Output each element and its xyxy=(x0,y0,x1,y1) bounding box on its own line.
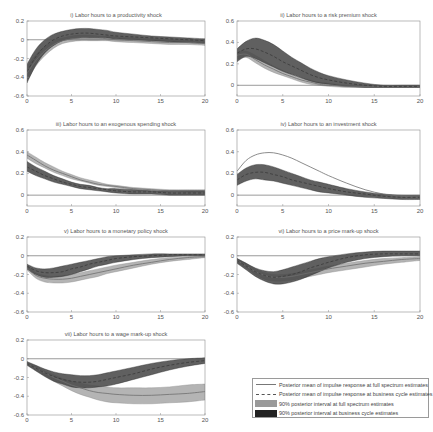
y-tick-label: -0.4 xyxy=(14,290,25,296)
panel-i: i) Labor hours to a productivity shock05… xyxy=(14,12,209,104)
x-tick-label: 15 xyxy=(157,417,164,423)
x-tick-label: 5 xyxy=(70,98,74,104)
legend-item-full-interval: 90% posterior interval at full spectrum … xyxy=(255,399,426,409)
y-tick-label: -0.2 xyxy=(224,272,235,278)
y-tick-label: 0 xyxy=(21,253,25,259)
x-tick-label: 5 xyxy=(70,208,74,214)
y-tick-label: -0.4 xyxy=(14,74,25,80)
x-tick-label: 0 xyxy=(25,98,29,104)
y-tick-label: 0.2 xyxy=(16,234,25,240)
panel-vi: vi) Labor hours to a price mark-up shock… xyxy=(224,228,424,320)
x-tick-label: 20 xyxy=(202,208,209,214)
y-tick-label: 0.2 xyxy=(226,170,235,176)
x-tick-label: 10 xyxy=(113,417,120,423)
panel-title: ii) Labor hours to a risk premium shock xyxy=(280,12,377,18)
y-tick-label: -0.6 xyxy=(224,309,235,315)
x-tick-label: 20 xyxy=(202,417,209,423)
panel-title: vii) Labor hours to a wage mark-up shock xyxy=(65,331,168,337)
panel-iii: iii) Labor hours to an exogenous spendin… xyxy=(16,121,209,214)
panel-vii: vii) Labor hours to a wage mark-up shock… xyxy=(14,331,209,423)
x-tick-label: 0 xyxy=(25,208,29,214)
x-tick-label: 10 xyxy=(325,98,332,104)
y-tick-label: 0 xyxy=(231,253,235,259)
y-tick-label: -0.6 xyxy=(14,93,25,99)
y-tick-label: 0.4 xyxy=(16,149,25,155)
x-tick-label: 10 xyxy=(113,98,120,104)
panel-title: vi) Labor hours to a price mark-up shock xyxy=(278,228,378,234)
x-tick-label: 5 xyxy=(70,417,74,423)
panel-title: i) Labor hours to a productivity shock xyxy=(70,12,162,18)
x-tick-label: 15 xyxy=(157,208,164,214)
x-tick-label: 5 xyxy=(70,314,74,320)
legend-label: 90% posterior interval at full spectrum … xyxy=(279,401,394,407)
panel-title: iv) Labor hours to an investment shock xyxy=(280,121,376,127)
y-tick-label: -0.6 xyxy=(14,412,25,418)
panel-title: v) Labor hours to a monetary policy shoc… xyxy=(64,228,168,234)
x-tick-label: 5 xyxy=(281,98,285,104)
x-tick-label: 20 xyxy=(417,208,424,214)
y-tick-label: 0.2 xyxy=(16,170,25,176)
x-tick-label: 5 xyxy=(281,314,285,320)
y-tick-label: 0 xyxy=(21,192,25,198)
y-tick-label: 0 xyxy=(21,356,25,362)
y-tick-label: -0.4 xyxy=(224,290,235,296)
legend-label: Posterior mean of impulse response at fu… xyxy=(279,382,428,388)
y-tick-label: 0 xyxy=(231,82,235,88)
x-tick-label: 15 xyxy=(157,314,164,320)
y-tick-label: -0.2 xyxy=(14,375,25,381)
x-tick-label: 0 xyxy=(25,417,29,423)
x-tick-label: 20 xyxy=(202,98,209,104)
panel-ii: ii) Labor hours to a risk premium shock0… xyxy=(226,12,424,104)
dashed-line-swatch-icon xyxy=(255,391,277,398)
panel-v: v) Labor hours to a monetary policy shoc… xyxy=(14,228,209,320)
y-tick-label: -0.4 xyxy=(14,393,25,399)
x-tick-label: 0 xyxy=(25,314,29,320)
legend-item-bc-mean: Posterior mean of impulse response at bu… xyxy=(255,390,426,400)
y-tick-label: 0.2 xyxy=(16,337,25,343)
x-tick-label: 20 xyxy=(417,98,424,104)
x-tick-label: 15 xyxy=(157,98,164,104)
solid-line-swatch-icon xyxy=(255,381,277,388)
y-tick-label: 0.4 xyxy=(226,39,235,45)
legend-label: Posterior mean of impulse response at bu… xyxy=(279,391,432,397)
y-tick-label: 0.4 xyxy=(226,149,235,155)
x-tick-label: 15 xyxy=(371,208,378,214)
x-tick-label: 15 xyxy=(371,98,378,104)
impulse-response-figure: i) Labor hours to a productivity shock05… xyxy=(0,0,433,432)
y-tick-label: 0.6 xyxy=(16,127,25,133)
x-tick-label: 15 xyxy=(371,314,378,320)
business-cycle-interval-band xyxy=(237,164,420,199)
x-tick-label: 0 xyxy=(235,208,239,214)
panel-iv: iv) Labor hours to an investment shock05… xyxy=(226,121,424,214)
dark-fill-swatch-icon xyxy=(255,410,277,417)
legend: Posterior mean of impulse response at fu… xyxy=(252,378,429,418)
y-tick-label: -0.6 xyxy=(14,309,25,315)
business-cycle-interval-band xyxy=(237,38,420,87)
x-tick-label: 10 xyxy=(113,208,120,214)
x-tick-label: 5 xyxy=(281,208,285,214)
x-tick-label: 10 xyxy=(113,314,120,320)
y-tick-label: -0.2 xyxy=(14,56,25,62)
y-tick-label: 0.2 xyxy=(226,61,235,67)
panel-title: iii) Labor hours to an exogenous spendin… xyxy=(56,121,177,127)
x-tick-label: 20 xyxy=(202,314,209,320)
y-tick-label: 0.6 xyxy=(226,18,235,24)
x-tick-label: 10 xyxy=(325,208,332,214)
business-cycle-interval-band xyxy=(27,28,205,82)
y-tick-label: 0.6 xyxy=(226,127,235,133)
legend-item-bc-interval: 90% posterior interval at business cycle… xyxy=(255,409,426,419)
x-tick-label: 10 xyxy=(325,314,332,320)
x-tick-label: 0 xyxy=(235,314,239,320)
y-tick-label: 0 xyxy=(21,37,25,43)
y-tick-label: 0 xyxy=(231,192,235,198)
y-tick-label: 0.2 xyxy=(226,234,235,240)
y-tick-label: -0.2 xyxy=(14,272,25,278)
business-cycle-interval-band xyxy=(27,358,205,388)
x-tick-label: 20 xyxy=(417,314,424,320)
x-tick-label: 0 xyxy=(235,98,239,104)
light-fill-swatch-icon xyxy=(255,400,277,407)
legend-item-full-mean: Posterior mean of impulse response at fu… xyxy=(255,380,426,390)
full-spectrum-interval-band xyxy=(27,152,205,192)
legend-label: 90% posterior interval at business cycle… xyxy=(279,410,398,416)
y-tick-label: 0.2 xyxy=(16,18,25,24)
